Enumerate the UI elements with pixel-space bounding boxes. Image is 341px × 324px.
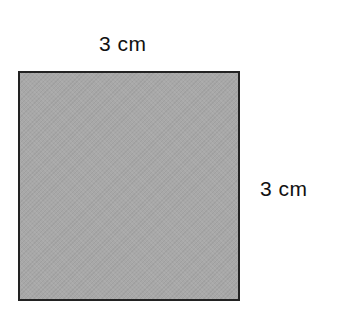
shaded-square (18, 71, 240, 301)
square-diagram: 3 cm 3 cm (0, 0, 341, 324)
top-side-length-label: 3 cm (99, 33, 147, 54)
right-side-length-label: 3 cm (260, 178, 308, 199)
